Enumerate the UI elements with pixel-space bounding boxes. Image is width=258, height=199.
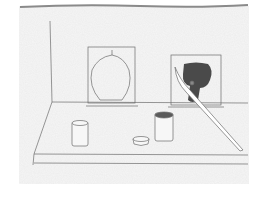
sketch-scene xyxy=(0,0,258,199)
small-dish xyxy=(133,137,149,146)
paper-sheet xyxy=(19,5,249,184)
jar-right xyxy=(155,112,173,141)
jar-left xyxy=(72,121,88,147)
